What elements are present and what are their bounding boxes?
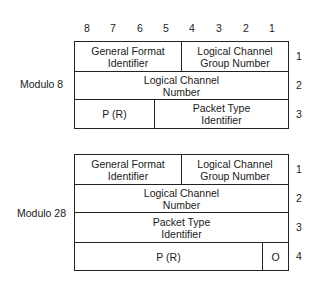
modulo-8-label: Modulo 8 xyxy=(20,78,63,90)
octet-1: 1 xyxy=(292,163,306,175)
p-r-field: P (R) xyxy=(74,99,155,129)
octet-3: 3 xyxy=(292,108,306,120)
bit-4: 4 xyxy=(186,22,198,34)
octet-1: 1 xyxy=(292,50,306,62)
logical-channel-number-field: Logical Channel Number xyxy=(74,71,289,100)
bit-2: 2 xyxy=(240,22,252,34)
packet-type-identifier-field: Packet Type Identifier xyxy=(154,99,289,129)
octet-2: 2 xyxy=(292,192,306,204)
logical-channel-number-field: Logical Channel Number xyxy=(74,184,289,213)
packet-type-identifier-field: Packet Type Identifier xyxy=(74,212,289,243)
octet-4: 4 xyxy=(292,250,306,262)
bit-6: 6 xyxy=(134,22,146,34)
bit-8: 8 xyxy=(81,22,93,34)
o-field: O xyxy=(262,242,289,271)
p-r-field: P (R) xyxy=(74,242,263,271)
bit-5: 5 xyxy=(160,22,172,34)
general-format-identifier-field: General Format Identifier xyxy=(74,41,182,72)
bit-1: 1 xyxy=(266,22,278,34)
bit-3: 3 xyxy=(213,22,225,34)
modulo-128-label: Modulo 28 xyxy=(17,207,66,219)
logical-channel-group-number-field: Logical Channel Group Number xyxy=(181,154,289,185)
bit-7: 7 xyxy=(107,22,119,34)
octet-2: 2 xyxy=(292,79,306,91)
octet-3: 3 xyxy=(292,221,306,233)
logical-channel-group-number-field: Logical Channel Group Number xyxy=(181,41,289,72)
general-format-identifier-field: General Format Identifier xyxy=(74,154,182,185)
